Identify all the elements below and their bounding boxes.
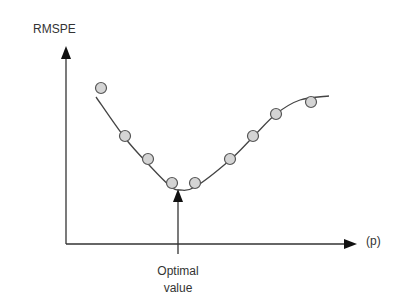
data-point: [190, 178, 201, 189]
annotation-line-1: Optimal: [148, 263, 208, 280]
data-point: [306, 97, 317, 108]
x-axis-arrow-icon: [344, 239, 357, 249]
annotation-line-2: value: [148, 280, 208, 297]
y-axis-arrow-icon: [61, 46, 71, 59]
data-point: [167, 178, 178, 189]
x-axis-label: (p): [366, 234, 381, 248]
rmspe-chart: [0, 0, 417, 308]
data-points: [96, 83, 317, 189]
y-axis-label: RMSPE: [33, 22, 76, 36]
data-point: [248, 131, 259, 142]
optimal-value-annotation: Optimal value: [148, 263, 208, 297]
data-point: [271, 109, 282, 120]
axes: [61, 46, 357, 249]
data-point: [143, 154, 154, 165]
data-point: [120, 131, 131, 142]
data-point: [96, 83, 107, 94]
data-point: [225, 154, 236, 165]
optimal-arrow-head-icon: [173, 189, 183, 202]
fitted-curve: [96, 96, 329, 190]
